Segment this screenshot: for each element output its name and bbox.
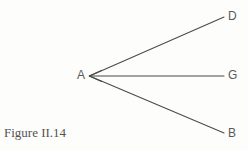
ray-group xyxy=(90,17,225,133)
point-label-g: G xyxy=(228,69,238,81)
point-label-b: B xyxy=(228,127,236,139)
ray-AD-line xyxy=(90,17,225,76)
ray-AB-line xyxy=(90,76,225,133)
point-label-a: A xyxy=(77,69,85,81)
figure-container: A D G B Figure II.14 xyxy=(0,0,248,151)
figure-caption: Figure II.14 xyxy=(4,126,66,139)
point-label-d: D xyxy=(228,10,237,22)
